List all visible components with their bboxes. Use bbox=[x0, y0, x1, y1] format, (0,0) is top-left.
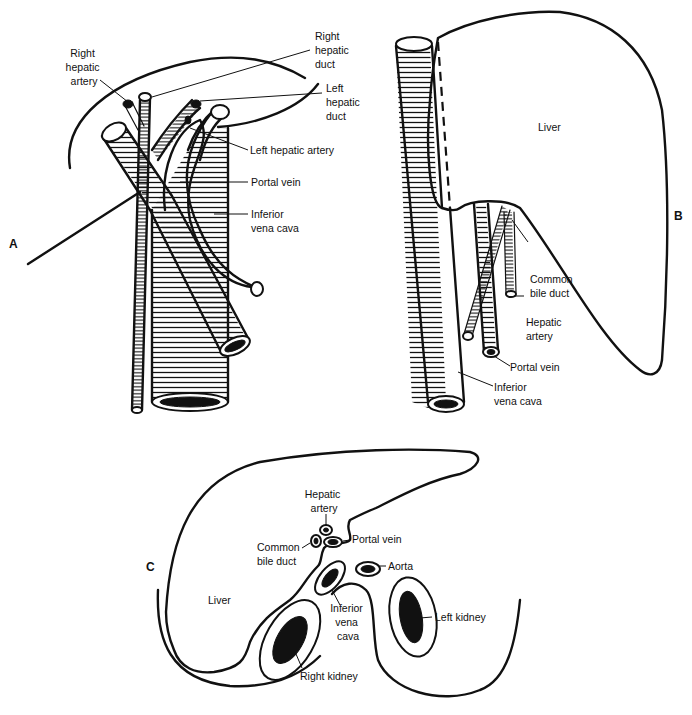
panel-b-letter: B bbox=[674, 209, 683, 223]
panel-c: C bbox=[146, 450, 520, 697]
label-portal-vein-c: Portal vein bbox=[352, 533, 402, 545]
label-hepatic-artery-b: Hepatic artery bbox=[526, 316, 565, 342]
panel-a: A bbox=[9, 30, 363, 413]
label-inferior-vena-cava-b: Inferior vena cava bbox=[494, 381, 542, 407]
label-common-bile-duct-b: Common bile duct bbox=[530, 273, 576, 299]
panel-a-letter: A bbox=[9, 237, 18, 251]
panel-c-letter: C bbox=[146, 560, 155, 574]
label-right-hepatic-artery: Right hepatic artery bbox=[66, 47, 103, 87]
label-portal-vein-b: Portal vein bbox=[510, 361, 560, 373]
left-kidney bbox=[383, 574, 442, 661]
label-right-kidney: Right kidney bbox=[300, 670, 359, 682]
liver-lower-edge bbox=[218, 84, 318, 127]
anatomy-figure: A bbox=[0, 0, 692, 715]
inferior-vena-cava-c bbox=[309, 556, 350, 599]
aorta-c bbox=[356, 562, 380, 576]
label-liver-b: Liver bbox=[538, 121, 561, 133]
common-bile-duct-b bbox=[504, 212, 516, 297]
label-portal-vein-a: Portal vein bbox=[251, 176, 301, 188]
inferior-vena-cava-b bbox=[396, 37, 464, 412]
label-left-hepatic-duct: Left hepatic duct bbox=[326, 82, 363, 122]
label-liver-c: Liver bbox=[208, 594, 231, 606]
label-inferior-vena-cava-a: Inferior vena cava bbox=[251, 208, 299, 234]
label-aorta-c: Aorta bbox=[388, 560, 413, 572]
panel-b: B bbox=[396, 12, 683, 412]
left-hepatic-artery-stub bbox=[185, 116, 191, 124]
label-right-hepatic-duct: Right hepatic duct bbox=[315, 30, 352, 70]
label-common-bile-duct-c: Common bile duct bbox=[257, 541, 303, 567]
label-inferior-vena-cava-c: Inferior vena cava bbox=[330, 602, 366, 642]
label-hepatic-artery-c: Hepatic artery bbox=[305, 488, 344, 514]
ligament-line bbox=[28, 192, 140, 264]
label-left-kidney: Left kidney bbox=[435, 611, 487, 623]
label-left-hepatic-artery: Left hepatic artery bbox=[250, 144, 335, 156]
portal-triad bbox=[311, 525, 342, 547]
